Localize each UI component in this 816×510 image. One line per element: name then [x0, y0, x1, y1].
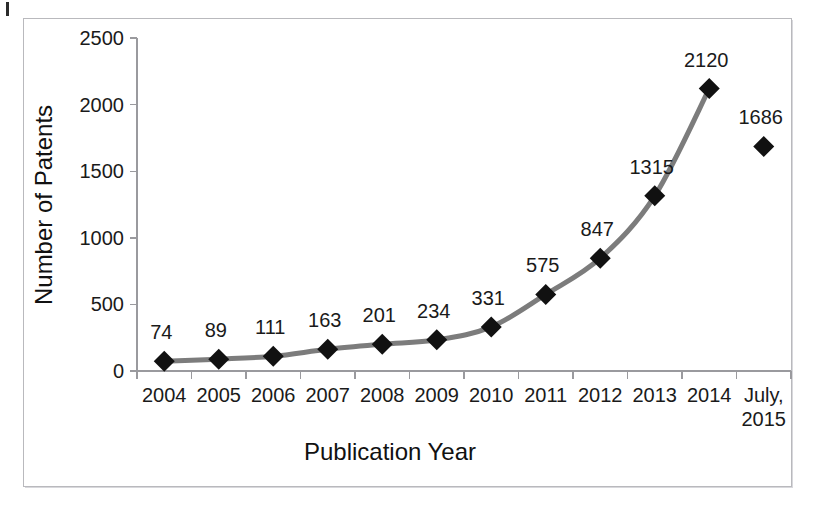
y-axis-title: Number of Patents [30, 105, 57, 305]
data-label-1686: 1686 [739, 106, 784, 128]
data-label-575: 575 [526, 254, 559, 276]
x-tick-label-6: 2010 [469, 384, 514, 406]
x-axis-tick-labels: 2004200520062007200820092010201120122013… [142, 384, 786, 430]
y-tick-label-500: 500 [91, 293, 124, 315]
data-label-111: 111 [255, 316, 285, 338]
data-marker-2014 [699, 78, 720, 99]
x-axis-title: Publication Year [304, 438, 476, 465]
data-label-1315: 1315 [630, 156, 675, 178]
x-tick-label-9: 2013 [633, 384, 678, 406]
data-marker-2007 [317, 339, 338, 360]
x-axis-ticks [137, 371, 791, 379]
x-tick-label-4: 2008 [360, 384, 405, 406]
y-tick-label-2500: 2500 [80, 27, 125, 49]
data-label-201: 201 [363, 304, 396, 326]
x-tick-label-2: 2006 [251, 384, 296, 406]
x-tick-label-0: 2004 [142, 384, 187, 406]
data-label-331: 331 [472, 287, 505, 309]
data-marker-2009 [426, 329, 447, 350]
data-label-163: 163 [308, 309, 341, 331]
x-tick-label-7: 2011 [524, 384, 567, 406]
x-tick-label-10: 2014 [687, 384, 732, 406]
data-marker-2008 [372, 334, 393, 355]
x-tick-label-3: 2007 [306, 384, 351, 406]
data-label-847: 847 [581, 218, 614, 240]
x-tick-label-8: 2012 [578, 384, 623, 406]
data-label-234: 234 [417, 300, 450, 322]
data-label-74: 74 [150, 321, 172, 343]
x-tick-label-11-line1: July, [744, 384, 784, 406]
data-marker-2010 [481, 316, 502, 337]
data-marker-2005 [208, 349, 229, 370]
data-point-labels: 7489111163201234331575847131521201686 [150, 49, 783, 344]
patents-line-chart: 05001000150020002500 7489111163201234331… [0, 0, 816, 510]
data-marker-2004 [154, 351, 175, 372]
y-axis-tick-labels: 05001000150020002500 [80, 27, 125, 382]
y-tick-label-1000: 1000 [80, 227, 125, 249]
data-label-2120: 2120 [684, 49, 729, 71]
x-tick-label-5: 2009 [415, 384, 460, 406]
y-tick-label-1500: 1500 [80, 160, 125, 182]
y-axis-ticks [130, 38, 137, 371]
data-point-markers [154, 78, 775, 372]
data-marker-July2015 [753, 136, 774, 157]
x-tick-label-1: 2005 [197, 384, 242, 406]
figure-page: 05001000150020002500 7489111163201234331… [0, 0, 816, 510]
x-tick-label-11-line2: 2015 [742, 408, 787, 430]
data-label-89: 89 [205, 319, 227, 341]
data-marker-2006 [263, 346, 284, 367]
y-tick-label-2000: 2000 [80, 94, 125, 116]
y-tick-label-0: 0 [113, 360, 124, 382]
